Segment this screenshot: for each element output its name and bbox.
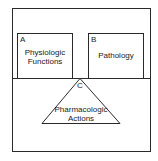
triangle-c-label-line2: Actions xyxy=(68,114,94,123)
box-a-label-line2: Functions xyxy=(28,57,63,66)
triangle-c: C Pharmacologic Actions xyxy=(42,79,120,124)
box-a-letter: A xyxy=(20,35,26,44)
box-b: B Pathology xyxy=(89,34,144,79)
triangle-c-letter: C xyxy=(77,81,83,90)
box-a-label-line1: Physiologic xyxy=(25,48,65,57)
box-b-label: Pathology xyxy=(98,51,134,60)
box-b-letter: B xyxy=(91,35,96,44)
box-a: A Physiologic Functions xyxy=(18,34,73,79)
triangle-c-label-line1: Pharmacologic xyxy=(55,105,108,114)
diagram-canvas: A Physiologic Functions B Pathology C Ph… xyxy=(0,0,158,161)
